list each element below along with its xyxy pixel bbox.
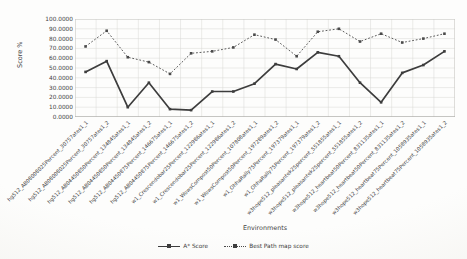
bestpath-data-point xyxy=(422,37,425,40)
astar-data-point xyxy=(443,50,446,53)
bestpath-data-point xyxy=(338,28,341,31)
legend-item-bestpath: Best Path map score xyxy=(224,243,309,249)
y-tick-label: 0.0000 xyxy=(53,114,73,120)
bestpath-data-point xyxy=(274,38,277,41)
legend-item-astar: A* Score xyxy=(158,243,208,249)
astar-data-point xyxy=(105,60,108,63)
bestpath-data-point xyxy=(232,46,235,49)
bestpath-data-point xyxy=(359,40,362,43)
bestpath-data-point xyxy=(84,45,87,48)
plot-area xyxy=(75,19,455,117)
bestpath-data-point xyxy=(190,52,193,55)
astar-data-point xyxy=(232,90,235,93)
bestpath-data-point xyxy=(401,41,404,44)
astar-data-point xyxy=(190,109,193,112)
y-tick-label: 60.0000 xyxy=(49,55,73,61)
bestpath-data-point xyxy=(211,50,214,53)
astar-data-point xyxy=(401,72,404,75)
bestpath-data-point xyxy=(126,56,129,59)
bestpath-data-point xyxy=(295,55,298,58)
astar-data-point xyxy=(253,82,256,85)
astar-data-point xyxy=(274,63,277,66)
bestpath-data-point xyxy=(169,73,172,76)
bestpath-data-point xyxy=(105,29,108,32)
y-tick-label: 40.0000 xyxy=(49,75,73,81)
chart-page: Score % 100.000090.000080.000070.000060.… xyxy=(0,0,467,259)
astar-data-point xyxy=(126,106,129,109)
x-axis-title: Environments xyxy=(75,224,455,232)
bestpath-data-point xyxy=(380,32,383,35)
legend-label-astar: A* Score xyxy=(183,243,208,249)
line-chart: Score % 100.000090.000080.000070.000060.… xyxy=(0,0,467,259)
astar-data-point xyxy=(295,68,298,71)
y-tick-label: 90.0000 xyxy=(49,26,73,32)
y-tick-label: 30.0000 xyxy=(49,85,73,91)
astar-data-point xyxy=(148,81,151,84)
bestpath-data-point xyxy=(443,32,446,35)
y-tick-label: 70.0000 xyxy=(49,45,73,51)
bestpath-line-sample-icon xyxy=(224,246,246,247)
astar-data-point xyxy=(211,90,214,93)
legend: A* Score Best Path map score xyxy=(0,243,467,249)
y-tick-label: 80.0000 xyxy=(49,36,73,42)
y-tick-label: 10.0000 xyxy=(49,104,73,110)
astar-line-sample-icon xyxy=(158,246,180,247)
astar-data-point xyxy=(316,51,319,54)
y-tick-label: 100.0000 xyxy=(45,16,73,22)
astar-data-point xyxy=(338,55,341,58)
astar-data-point xyxy=(169,108,172,111)
y-tick-label: 50.0000 xyxy=(49,65,73,71)
bestpath-data-point xyxy=(148,61,151,64)
astar-data-point xyxy=(380,101,383,104)
astar-data-point xyxy=(84,71,87,74)
bestpath-data-point xyxy=(316,30,319,33)
astar-data-point xyxy=(359,81,362,84)
bestpath-marker-icon xyxy=(233,244,236,247)
y-axis-title: Score % xyxy=(16,56,24,68)
legend-label-bestpath: Best Path map score xyxy=(249,243,309,249)
astar-data-point xyxy=(422,64,425,67)
y-tick-label: 20.0000 xyxy=(49,94,73,100)
astar-marker-icon xyxy=(167,244,170,247)
bestpath-data-point xyxy=(253,33,256,36)
